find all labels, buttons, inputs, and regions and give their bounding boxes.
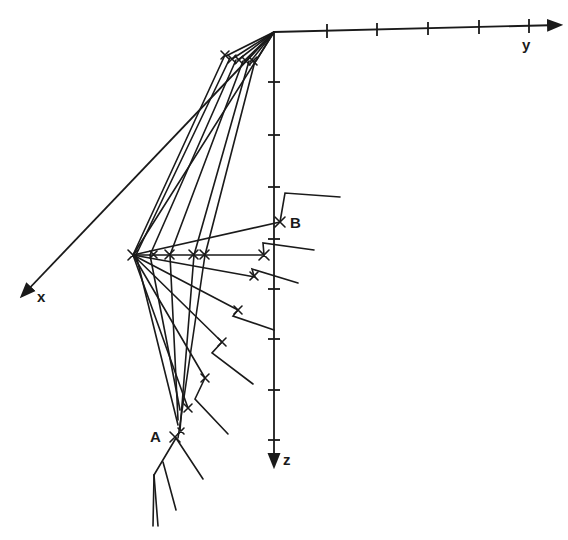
- descending-lines: [133, 55, 255, 438]
- y-axis-label: y: [522, 36, 531, 53]
- y-axis-ticks: [327, 19, 529, 38]
- point-a-group: A: [150, 428, 203, 526]
- point-b-label: B: [290, 214, 301, 231]
- axes: y z x: [22, 19, 560, 468]
- y-axis: [274, 25, 560, 32]
- offshoot-lines: [178, 269, 298, 434]
- point-a-label: A: [150, 428, 161, 445]
- z-axis-label: z: [283, 451, 291, 468]
- diagram-canvas: y z x: [0, 0, 568, 540]
- x-axis-label: x: [37, 288, 46, 305]
- x-axis: [22, 32, 274, 296]
